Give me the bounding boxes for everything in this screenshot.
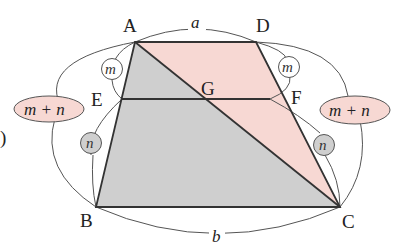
length-a: a — [191, 13, 200, 32]
label-C: C — [342, 211, 355, 232]
ratio-m-right: m — [282, 59, 293, 75]
label-F: F — [291, 87, 302, 108]
ratio-m-left: m — [105, 61, 116, 77]
label-E: E — [91, 89, 103, 110]
label-A: A — [123, 15, 137, 36]
label-B: B — [80, 210, 93, 231]
label-G: G — [201, 78, 215, 99]
trapezoid-diagram: A D E F G B C a b m n m n m + n m + n ) — [0, 0, 393, 248]
ratio-n-left: n — [86, 135, 94, 151]
ratio-mn-left: m + n — [24, 100, 65, 119]
edge-paren: ) — [0, 127, 6, 149]
label-D: D — [256, 15, 270, 36]
ratio-mn-right: m + n — [329, 101, 370, 120]
ratio-n-right: n — [319, 137, 327, 153]
length-b: b — [212, 227, 221, 246]
